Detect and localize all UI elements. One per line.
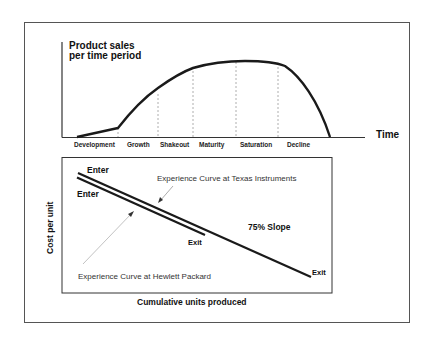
slope-label: 75% Slope: [248, 222, 291, 232]
hp-enter-label: Enter: [77, 189, 99, 199]
ti-enter-label: Enter: [87, 165, 109, 175]
sales-curve: [77, 61, 330, 137]
units-axis-label: Cumulative units produced: [137, 297, 247, 307]
hp-exit-label: Exit: [188, 238, 202, 247]
ti-exit-label: Exit: [312, 268, 326, 277]
phase-label-shakeout: Shakeout: [160, 141, 190, 148]
phase-label-development: Development: [74, 141, 116, 149]
hp-pointer-line: [83, 213, 132, 264]
phase-label-growth: Growth: [127, 141, 150, 148]
figure-canvas: Product sales per time period Time Devel…: [0, 0, 431, 339]
phase-label-maturity: Maturity: [199, 141, 225, 149]
product-life-cycle-chart: Product sales per time period Time Devel…: [62, 40, 400, 149]
ti-pointer-line: [160, 186, 173, 201]
cost-axis-label: Cost per unit: [45, 201, 55, 254]
experience-curve-chart: Enter Enter Exit Exit 75% Slope Experien…: [45, 158, 332, 308]
y-axis-label-line2: per time period: [69, 50, 141, 61]
phase-label-decline: Decline: [287, 141, 311, 148]
x-axis-label: Time: [376, 129, 400, 140]
hp-experience-line: [77, 178, 205, 236]
hp-curve-label: Experience Curve at Hewlett Packard: [78, 272, 211, 281]
ti-curve-label: Experience Curve at Texas Instruments: [157, 174, 296, 183]
phase-label-saturation: Saturation: [240, 141, 272, 148]
